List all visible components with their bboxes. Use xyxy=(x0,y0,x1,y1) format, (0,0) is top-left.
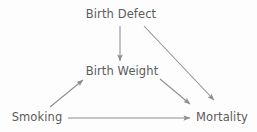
node-label-smoking: Smoking xyxy=(12,112,63,124)
edge-arrow-smoking-to-birth_weight xyxy=(50,80,83,107)
node-label-birth_weight: Birth Weight xyxy=(86,66,159,78)
causal-diagram: Birth DefectBirth WeightSmokingMortality xyxy=(0,0,257,132)
node-label-birth_defect: Birth Defect xyxy=(86,9,156,21)
edge-arrow-birth_defect-to-mortality xyxy=(144,26,214,100)
node-label-mortality: Mortality xyxy=(196,112,248,124)
edge-arrow-birth_weight-to-mortality xyxy=(160,79,190,104)
